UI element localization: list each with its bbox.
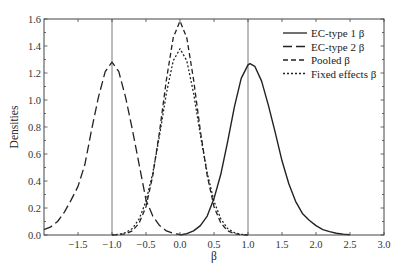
x-tick-label: 2.5 bbox=[343, 239, 356, 250]
series-line-0 bbox=[180, 64, 350, 235]
x-tick-label: 0.0 bbox=[173, 239, 186, 250]
x-tick-label: 1.0 bbox=[241, 239, 254, 250]
y-tick-label: 1.6 bbox=[28, 14, 41, 25]
legend-label-2: Pooled β bbox=[311, 54, 350, 66]
y-tick-label: 0.8 bbox=[28, 122, 41, 133]
x-axis-label: β bbox=[211, 250, 217, 263]
y-tick-label: 0.4 bbox=[28, 176, 42, 187]
x-tick-label: 2.0 bbox=[309, 239, 322, 250]
legend: EC-type 1 βEC-type 2 βPooled βFixed effe… bbox=[283, 27, 377, 80]
x-tick-label: −0.5 bbox=[136, 239, 155, 250]
density-chart: −1.5−1.0−0.50.00.51.01.52.02.53.0 0.00.2… bbox=[0, 0, 402, 273]
series-lines bbox=[44, 21, 350, 235]
y-tick-label: 0.0 bbox=[28, 230, 41, 241]
legend-label-1: EC-type 2 β bbox=[311, 41, 365, 53]
y-tick-label: 1.2 bbox=[28, 68, 41, 79]
x-tick-label: 3.0 bbox=[377, 239, 390, 250]
y-tick-label: 0.2 bbox=[28, 203, 41, 214]
legend-label-0: EC-type 1 β bbox=[311, 27, 365, 39]
legend-label-3: Fixed effects β bbox=[311, 68, 377, 80]
y-tick-label: 1.0 bbox=[28, 95, 41, 106]
y-tick-label: 1.4 bbox=[28, 41, 42, 52]
x-tick-label: −1.5 bbox=[68, 239, 87, 250]
x-tick-label: 0.5 bbox=[207, 239, 220, 250]
x-tick-label: 1.5 bbox=[275, 239, 288, 250]
x-tick-label: −1.0 bbox=[102, 239, 121, 250]
y-tick-label: 0.6 bbox=[28, 149, 41, 160]
y-axis-label: Densities bbox=[8, 105, 20, 148]
